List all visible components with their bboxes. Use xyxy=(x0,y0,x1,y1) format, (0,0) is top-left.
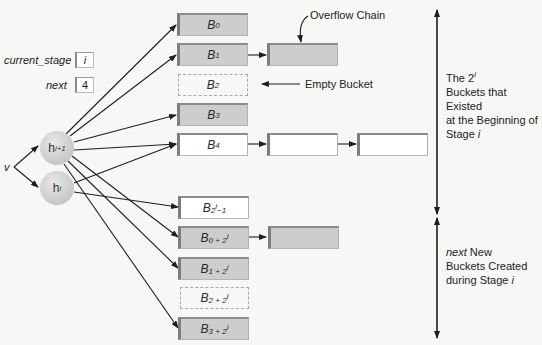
bucket-label: B xyxy=(207,48,215,62)
bucket-label: B xyxy=(201,322,209,336)
current-stage-value: i xyxy=(75,52,94,68)
empty-bucket-annotation: Empty Bucket xyxy=(305,77,373,91)
existing-buckets-note: The 2i Buckets that Existed at the Begin… xyxy=(446,68,542,141)
bucket-sub: 3 + 2 xyxy=(209,326,227,335)
bucket-b-3-plus-2i: B3 + 2i xyxy=(178,317,249,340)
note-text: Stage xyxy=(446,128,478,140)
note-text: Buckets Created xyxy=(446,259,527,273)
bucket-label: B xyxy=(201,262,209,276)
note-text: The 2 xyxy=(446,72,474,84)
note-text: at the Beginning of xyxy=(446,113,542,127)
new-buckets-note: next New Buckets Created during Stage i xyxy=(446,245,527,287)
bucket-b-2-plus-2i: B2 + 2i xyxy=(180,287,249,309)
bucket-b-1-plus-2i: B1 + 2i xyxy=(178,257,249,280)
bucket-sub: 2 + 2 xyxy=(209,295,227,304)
input-v-label: v xyxy=(4,160,10,174)
bucket-b-0-plus-2i: B0 + 2i xyxy=(178,226,249,249)
hash-name: h xyxy=(53,181,60,195)
bucket-sub2: −1 xyxy=(217,205,226,214)
overflow-page-b4-2 xyxy=(357,133,428,156)
bucket-label: B xyxy=(207,138,215,152)
bucket-label: B xyxy=(207,108,215,122)
bucket-sub: 4 xyxy=(215,141,219,150)
bucket-b0: B0 xyxy=(177,13,248,36)
overflow-page-b4-1 xyxy=(267,133,338,156)
next-label: next xyxy=(46,78,67,92)
bucket-b4: B4 xyxy=(177,133,248,156)
note-text: Buckets that Existed xyxy=(446,85,542,113)
overflow-chain-annotation: Overflow Chain xyxy=(310,8,385,22)
bucket-sub: 0 + 2 xyxy=(209,235,227,244)
bucket-sub: 1 xyxy=(215,51,219,60)
next-value: 4 xyxy=(75,77,94,93)
overflow-page-b1 xyxy=(267,43,338,66)
note-var: i xyxy=(511,274,513,286)
bucket-sup: i xyxy=(227,232,229,241)
note-sup: i xyxy=(474,70,476,79)
bucket-sup: i xyxy=(227,292,229,301)
bucket-sup: i xyxy=(227,323,229,332)
hash-node-h-i: hi xyxy=(40,171,74,205)
note-var: next xyxy=(446,246,467,258)
note-text: during Stage xyxy=(446,274,511,286)
hash-name: h xyxy=(48,141,55,155)
note-text: New xyxy=(467,246,492,258)
bucket-sub: 2 xyxy=(215,81,219,90)
bucket-b2: B2 xyxy=(178,74,248,96)
bucket-label: B xyxy=(207,78,215,92)
bucket-sub: 0 xyxy=(215,21,219,30)
bucket-b1: B1 xyxy=(177,43,248,66)
bucket-label: B xyxy=(203,201,211,215)
bucket-sup: i xyxy=(227,263,229,272)
hash-node-h-i-plus-1: hi+1 xyxy=(40,131,74,165)
overflow-page-b-0-plus-2i xyxy=(268,226,339,249)
bucket-label: B xyxy=(207,18,215,32)
bucket-b3: B3 xyxy=(177,103,248,126)
bucket-b-2i-minus-1: B2i−1 xyxy=(178,196,249,219)
bucket-sub: 1 + 2 xyxy=(209,266,227,275)
note-var: i xyxy=(478,128,480,140)
linear-hashing-diagram: current_stage i next 4 v hi+1 hi B0 B1 B… xyxy=(0,0,542,345)
hash-subscript: i+1 xyxy=(55,144,66,153)
bucket-sub: 3 xyxy=(215,111,219,120)
bucket-label: B xyxy=(201,291,209,305)
bucket-label: B xyxy=(201,231,209,245)
hash-subscript: i xyxy=(59,184,61,193)
current-stage-label: current_stage xyxy=(4,53,71,67)
